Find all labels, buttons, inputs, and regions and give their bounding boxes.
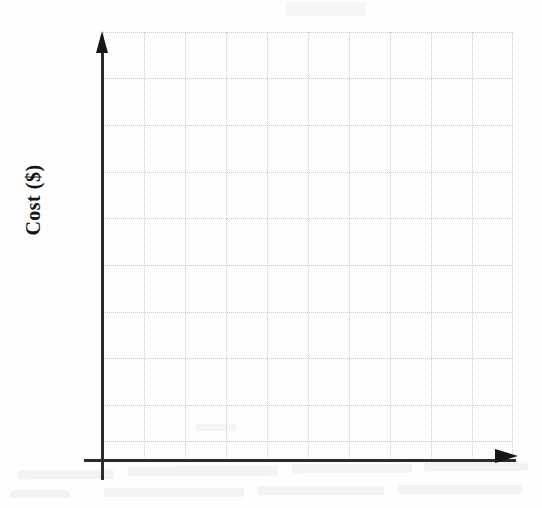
grid-line-vertical-8 bbox=[431, 32, 432, 460]
grid-line-vertical-3 bbox=[226, 32, 227, 460]
scan-artifact bbox=[104, 488, 244, 497]
grid-line-horizontal-3 bbox=[103, 172, 512, 173]
grid-line-vertical-1 bbox=[144, 32, 145, 460]
grid-line-horizontal-7 bbox=[103, 358, 512, 359]
graph-worksheet-page: Cost ($) bbox=[0, 0, 542, 508]
grid-line-horizontal-2 bbox=[103, 125, 512, 126]
arrow-up-icon bbox=[96, 31, 108, 53]
grid-line-horizontal-5 bbox=[103, 265, 512, 266]
scan-artifact bbox=[128, 466, 278, 477]
grid-line-horizontal-4 bbox=[103, 218, 512, 219]
grid-line-vertical-5 bbox=[308, 32, 309, 460]
grid-line-horizontal-6 bbox=[103, 312, 512, 313]
grid-line-horizontal-9 bbox=[103, 441, 512, 442]
scan-artifact bbox=[10, 490, 70, 498]
scan-artifact bbox=[258, 486, 384, 495]
grid-line-vertical-9 bbox=[472, 32, 473, 460]
grid-line-horizontal-0 bbox=[103, 32, 512, 33]
plot-grid-area bbox=[103, 32, 512, 460]
scan-artifact bbox=[292, 464, 412, 474]
scan-artifact bbox=[286, 2, 366, 16]
grid-line-horizontal-1 bbox=[103, 78, 512, 79]
grid-line-vertical-6 bbox=[349, 32, 350, 460]
grid-line-vertical-2 bbox=[185, 32, 186, 460]
arrow-right-icon bbox=[495, 449, 518, 463]
grid-line-vertical-7 bbox=[390, 32, 391, 460]
y-axis-label: Cost ($) bbox=[22, 130, 50, 270]
scan-artifact bbox=[398, 485, 522, 494]
grid-line-horizontal-8 bbox=[103, 405, 512, 406]
scan-artifact bbox=[18, 470, 114, 480]
scan-artifact bbox=[424, 462, 528, 472]
grid-line-vertical-10 bbox=[512, 32, 513, 460]
x-axis-line bbox=[84, 459, 516, 462]
grid-line-vertical-4 bbox=[267, 32, 268, 460]
y-axis-line bbox=[101, 40, 104, 480]
